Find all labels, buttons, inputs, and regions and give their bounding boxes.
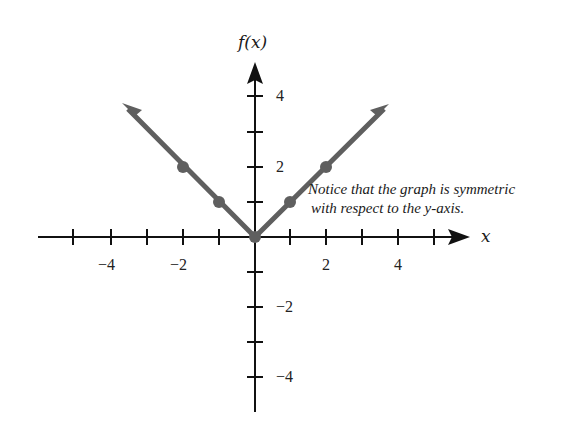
y-tick-label-neg4: −4	[276, 368, 293, 385]
y-tick-label-neg2: −2	[276, 298, 293, 315]
x-tick-label-4: 4	[394, 256, 402, 273]
absolute-value-graph: f(x) x −4 −2 2 4 4 2 −2 −4 Notice that t…	[0, 0, 568, 432]
y-tick-label-4: 4	[276, 87, 284, 104]
x-tick-label-neg4: −4	[98, 256, 115, 273]
x-axis-label: x	[481, 226, 491, 246]
symmetry-note: Notice that the graph is symmetric with …	[307, 181, 515, 216]
note-line-1: Notice that the graph is symmetric	[307, 181, 515, 197]
point-1-1	[284, 196, 296, 208]
y-tick-label-2: 2	[276, 158, 284, 175]
point-origin	[249, 231, 261, 243]
x-tick-label-neg2: −2	[170, 256, 187, 273]
note-line-2: with respect to the y-axis.	[311, 200, 464, 216]
point-neg2-2	[177, 161, 189, 173]
x-tick-label-2: 2	[322, 256, 330, 273]
y-axis-label: f(x)	[236, 32, 267, 52]
point-neg1-1	[213, 196, 225, 208]
point-2-2	[320, 161, 332, 173]
